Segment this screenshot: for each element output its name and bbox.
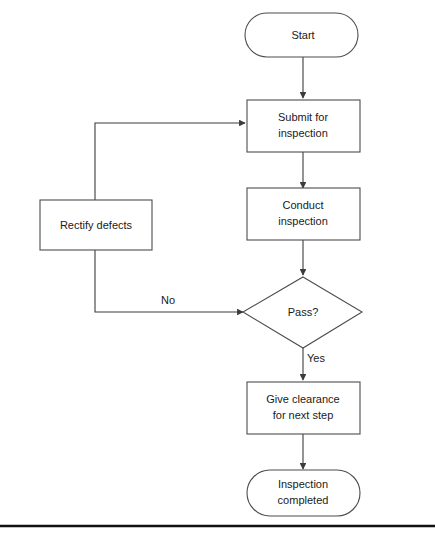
connector-rectify-to-submit	[95, 123, 245, 200]
node-rectify-label: Rectify defects	[60, 219, 133, 231]
node-submit-label-line2: inspection	[278, 127, 328, 139]
flowchart-svg: Start Submit for inspection Conduct insp…	[0, 0, 435, 539]
flowchart-canvas: Start Submit for inspection Conduct insp…	[0, 0, 435, 539]
node-start-label: Start	[291, 29, 314, 41]
node-clearance-label-line2: for next step	[273, 409, 334, 421]
node-conduct-label-line1: Conduct	[283, 199, 324, 211]
node-submit-label-line1: Submit for	[278, 111, 328, 123]
node-clearance-label-line1: Give clearance	[266, 393, 339, 405]
edge-label-yes: Yes	[307, 352, 325, 364]
node-decision-label: Pass?	[288, 306, 319, 318]
edge-label-no: No	[161, 294, 175, 306]
node-conduct-label-line2: inspection	[278, 215, 328, 227]
node-completed-label-line1: Inspection	[278, 478, 328, 490]
node-completed-label-line2: completed	[278, 494, 329, 506]
